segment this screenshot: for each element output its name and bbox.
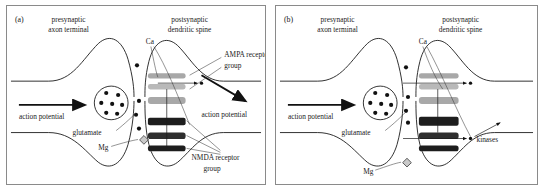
panel-b-action-potential-in-label: action potential [288, 112, 333, 121]
panel-b-magnesium-label: Mg [363, 167, 374, 176]
panel-a-ampa-bar-2 [148, 84, 186, 89]
panel-b-magnesium-ion [403, 158, 412, 167]
panel-b-presynaptic-label-line2: axon terminal [317, 25, 358, 34]
panel-a: (a) presynaptic axon terminal postsynapt… [6, 5, 266, 185]
panel-a-magnesium-label: Mg [98, 143, 109, 152]
panel-a-presynaptic-label-line2: axon terminal [48, 25, 89, 34]
panel-a-ampa-bar-1 [148, 73, 186, 78]
panel-b-ampa-bar-3 [419, 97, 459, 104]
panel-b-nmda-bar-2 [419, 133, 459, 139]
panel-b-ampa-bar-2 [419, 84, 459, 89]
synapse-figure: (a) presynaptic axon terminal postsynapt… [0, 0, 545, 191]
panel-a-nmda-label-line1: NMDA receptor [192, 153, 240, 162]
panel-b-nmda-bar-3 [419, 145, 459, 151]
panel-b-kinases-arrow [474, 123, 500, 137]
panel-a-action-potential-out-label: action potential [201, 110, 246, 119]
panel-b-calcium-label: Ca [419, 37, 428, 46]
panel-a-postsynaptic-label-line2: dendritic spine [168, 25, 211, 34]
panel-b-tag: (b) [284, 15, 294, 24]
panel-b-drawing: (b) presynaptic axon terminal postsynapt… [276, 6, 537, 184]
panel-b-ampa-bar-1 [419, 73, 459, 78]
panel-b: (b) presynaptic axon terminal postsynapt… [275, 5, 538, 185]
panel-b-glutamate-label: glutamate [341, 128, 370, 137]
panel-a-action-potential-out-arrow [201, 75, 245, 101]
panel-a-ampa-label-line1: AMPA receptor [224, 50, 265, 59]
panel-a-tag: (a) [15, 15, 24, 24]
panel-a-presynaptic-label-line1: presynaptic [52, 15, 87, 24]
panel-b-kinases-label: kinases [476, 135, 498, 144]
panel-a-action-potential-in-label: action potential [19, 112, 64, 121]
panel-b-nmda-bar-1 [419, 117, 459, 126]
panel-b-presynaptic-label-line1: presynaptic [321, 15, 356, 24]
panel-b-postsynaptic-label-line1: postsynaptic [442, 15, 479, 24]
panel-b-postsynaptic-label-line2: dendritic spine [439, 25, 482, 34]
panel-a-drawing: (a) presynaptic axon terminal postsynapt… [7, 6, 265, 184]
panel-a-calcium-label: Ca [146, 37, 155, 46]
panel-a-nmda-label-line2: group [203, 164, 220, 173]
panel-a-glutamate-label: glutamate [72, 128, 101, 137]
panel-a-postsynaptic-label-line1: postsynaptic [171, 15, 208, 24]
panel-a-ampa-label-line2: group [224, 61, 241, 70]
